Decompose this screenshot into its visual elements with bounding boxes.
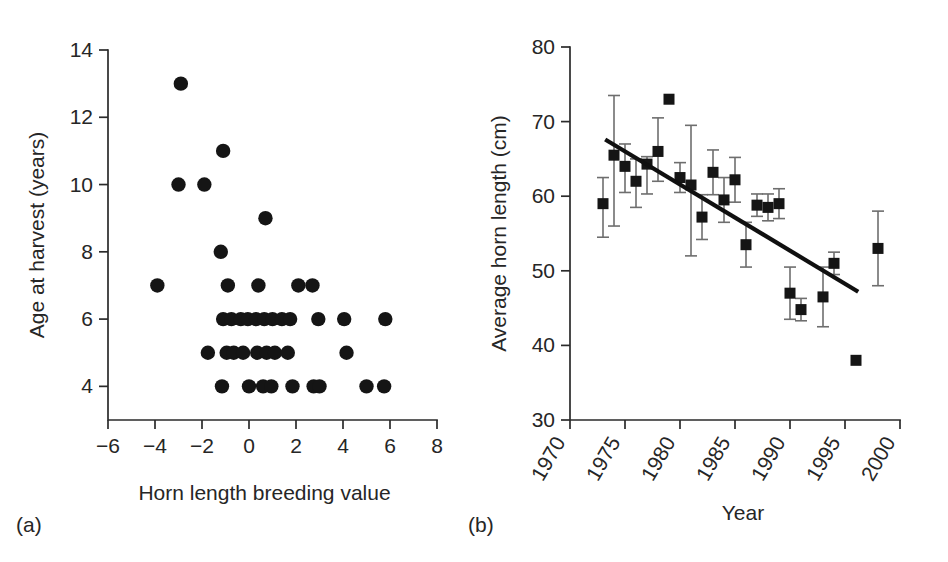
data-point-a — [216, 144, 230, 158]
data-point-a — [339, 346, 353, 360]
data-point-a — [251, 278, 265, 292]
panel-b-caption: (b) — [468, 513, 494, 536]
data-point-a — [258, 211, 272, 225]
x-ticklabel-a: −6 — [96, 434, 120, 457]
panel-a: 468101214−6−4−202468Age at harvest (year… — [16, 38, 443, 536]
data-point-b — [664, 94, 675, 105]
panel-a-caption: (a) — [16, 513, 42, 536]
x-ticklabel-a: 0 — [243, 434, 255, 457]
x-ticklabel-b: 1990 — [746, 433, 789, 485]
figure-container: 468101214−6−4−202468Age at harvest (year… — [0, 0, 948, 562]
x-ticklabel-a: 2 — [290, 434, 302, 457]
data-point-b — [774, 198, 785, 209]
data-point-b — [598, 198, 609, 209]
y-ticklabel-a: 6 — [81, 307, 93, 330]
data-point-b — [851, 355, 862, 366]
data-point-b — [741, 239, 752, 250]
x-ticklabel-b: 1975 — [581, 433, 624, 485]
data-point-a — [378, 312, 392, 326]
x-ticklabel-a: 8 — [431, 434, 443, 457]
data-point-a — [150, 278, 164, 292]
y-ticklabel-a: 8 — [81, 240, 93, 263]
x-ticklabel-b: 1985 — [691, 433, 734, 485]
data-point-a — [337, 312, 351, 326]
y-ticklabel-b: 40 — [532, 333, 555, 356]
x-ticklabel-a: −2 — [190, 434, 214, 457]
x-ticklabel-a: −4 — [143, 434, 167, 457]
x-ticklabel-b: 2000 — [856, 433, 899, 485]
x-ticklabel-b: 1980 — [636, 433, 679, 485]
data-point-a — [268, 346, 282, 360]
y-ticklabel-a: 4 — [81, 374, 93, 397]
data-point-a — [312, 379, 326, 393]
panel-a-axes — [108, 50, 437, 420]
data-point-a — [214, 245, 228, 259]
data-point-a — [221, 278, 235, 292]
y-ticklabel-a: 14 — [70, 38, 94, 61]
data-point-a — [171, 177, 185, 191]
data-point-b — [620, 161, 631, 172]
x-ticklabel-b: 1970 — [526, 433, 569, 485]
data-point-a — [264, 379, 278, 393]
data-point-b — [829, 258, 840, 269]
data-point-a — [283, 312, 297, 326]
data-point-b — [653, 146, 664, 157]
data-point-a — [236, 346, 250, 360]
data-point-a — [377, 379, 391, 393]
data-point-a — [174, 76, 188, 90]
data-point-b — [719, 194, 730, 205]
y-ticklabel-b: 50 — [532, 259, 555, 282]
y-ticklabel-b: 60 — [532, 184, 555, 207]
x-ticklabel-a: 4 — [337, 434, 349, 457]
trend-line-b — [605, 140, 858, 292]
y-ticklabel-b: 30 — [532, 408, 555, 431]
data-point-b — [708, 167, 719, 178]
data-point-a — [305, 278, 319, 292]
data-point-b — [730, 174, 741, 185]
data-point-a — [201, 346, 215, 360]
data-point-b — [763, 202, 774, 213]
data-point-a — [281, 346, 295, 360]
y-ticklabel-a: 12 — [70, 105, 93, 128]
data-point-b — [752, 200, 763, 211]
data-point-a — [242, 379, 256, 393]
y-axis-title-b: Average horn length (cm) — [487, 115, 510, 352]
data-point-b — [818, 291, 829, 302]
data-point-a — [291, 278, 305, 292]
x-ticklabel-a: 6 — [384, 434, 396, 457]
data-point-a — [285, 379, 299, 393]
x-axis-title-b: Year — [722, 501, 764, 524]
y-ticklabel-a: 10 — [70, 173, 93, 196]
data-point-b — [873, 243, 884, 254]
data-point-b — [785, 288, 796, 299]
y-ticklabel-b: 70 — [532, 110, 555, 133]
y-ticklabel-b: 80 — [532, 35, 555, 58]
data-point-a — [311, 312, 325, 326]
figure-svg: 468101214−6−4−202468Age at harvest (year… — [0, 0, 948, 562]
data-point-a — [215, 379, 229, 393]
data-point-b — [631, 176, 642, 187]
x-ticklabel-b: 1995 — [801, 433, 844, 485]
data-point-b — [697, 212, 708, 223]
x-axis-title-a: Horn length breeding value — [138, 481, 390, 504]
panel-b: 3040506070801970197519801985199019952000… — [468, 35, 900, 536]
data-point-a — [197, 177, 211, 191]
data-point-a — [359, 379, 373, 393]
y-axis-title-a: Age at harvest (years) — [25, 132, 48, 339]
data-point-b — [796, 304, 807, 315]
data-point-b — [609, 150, 620, 161]
